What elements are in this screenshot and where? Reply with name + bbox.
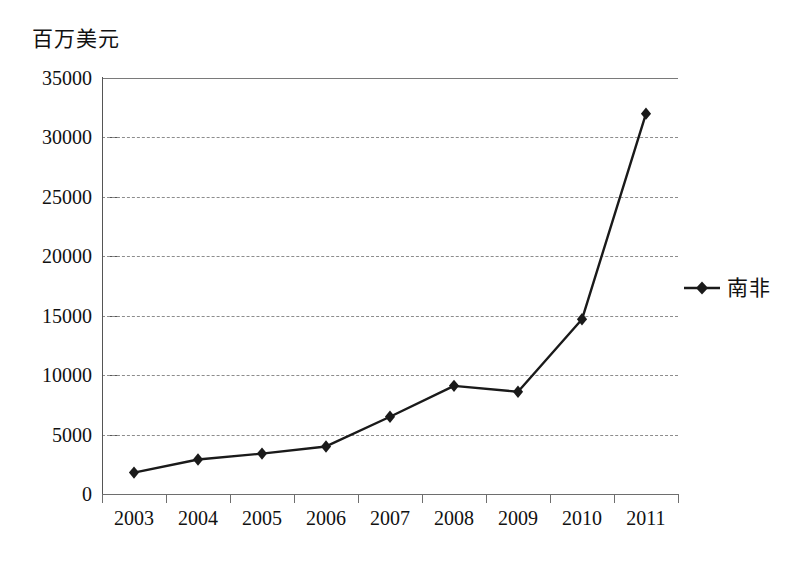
data-point-marker [257, 447, 267, 459]
data-point-marker [193, 453, 203, 465]
data-point-marker [641, 107, 651, 119]
legend-label: 南非 [727, 276, 771, 300]
line-chart: 百万美元 05000100001500020000250003000035000… [0, 0, 796, 570]
data-point-marker [449, 380, 459, 392]
data-point-marker [385, 411, 395, 423]
data-point-marker [129, 466, 139, 478]
legend-marker [683, 280, 721, 296]
data-point-marker [321, 440, 331, 452]
series-layer [0, 0, 796, 570]
legend: 南非 [683, 276, 771, 300]
series-markers-south-africa [129, 107, 651, 478]
diamond-marker-icon [696, 282, 708, 295]
